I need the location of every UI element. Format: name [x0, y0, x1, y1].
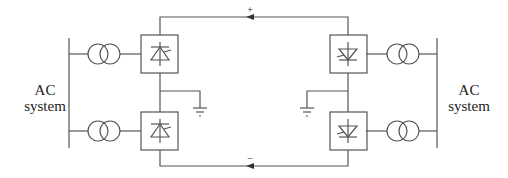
- left-ac-label-line1: AC: [35, 82, 56, 98]
- right-bottom-transformer-icon: [366, 121, 437, 141]
- right-ac-label-line1: AC: [459, 82, 480, 98]
- hvdc-diagram: AC system AC system + −: [0, 0, 508, 178]
- right-ac-label-line2: system: [448, 98, 490, 114]
- right-top-transformer-icon: [366, 44, 437, 64]
- right-bottom-converter-icon: [330, 112, 367, 150]
- negative-pole-label: −: [247, 153, 253, 164]
- left-top-converter-icon: [141, 35, 178, 73]
- left-ac-label-line2: system: [24, 98, 66, 114]
- left-bottom-converter-icon: [141, 112, 178, 150]
- left-top-transformer-icon: [69, 44, 141, 64]
- left-bottom-transformer-icon: [69, 121, 141, 141]
- right-top-converter-icon: [330, 35, 367, 73]
- positive-pole-label: +: [247, 4, 253, 15]
